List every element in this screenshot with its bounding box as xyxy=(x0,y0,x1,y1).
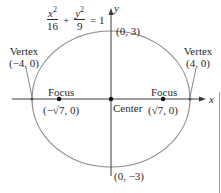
left-vertex-label: Vertex (−4, 0) xyxy=(4,45,44,69)
center-point xyxy=(109,97,113,101)
equation-term-y: y2 9 xyxy=(74,7,85,32)
equation-y-exp: 2 xyxy=(80,5,84,14)
right-focus-coords: (√7, 0) xyxy=(148,104,178,116)
bottom-point-label: (0, −3) xyxy=(114,170,144,182)
ellipse-equation: x2 16 + y2 9 = 1 xyxy=(45,7,108,32)
y-axis-arrow-icon xyxy=(109,8,114,15)
right-vertex-leader xyxy=(190,68,196,97)
equation-plus: + xyxy=(63,14,69,26)
left-vertex-coords: (−4, 0) xyxy=(4,57,44,69)
equation-term-x: x2 16 xyxy=(47,7,58,32)
right-vertex-coords: (4, 0) xyxy=(178,57,218,69)
center-label: Center xyxy=(113,102,142,114)
equation-x-exp: 2 xyxy=(53,5,57,14)
right-vertex-title: Vertex xyxy=(178,45,218,57)
equation-y-denominator: 9 xyxy=(77,20,83,32)
left-vertex-point xyxy=(30,97,33,100)
left-focus-title: Focus xyxy=(48,86,74,98)
equation-x-denominator: 16 xyxy=(47,20,58,32)
x-axis-label: x xyxy=(209,93,214,105)
left-vertex-leader xyxy=(26,68,32,97)
top-point-label: (0, 3) xyxy=(116,25,140,37)
left-focus-coords: (−√7, 0) xyxy=(43,104,79,116)
right-focus-title: Focus xyxy=(151,86,177,98)
equation-equals: = 1 xyxy=(90,14,104,26)
y-axis-label: y xyxy=(114,2,119,14)
x-axis-arrow-icon xyxy=(199,97,206,102)
right-vertex-label: Vertex (4, 0) xyxy=(178,45,218,69)
left-vertex-title: Vertex xyxy=(4,45,44,57)
right-vertex-point xyxy=(188,97,191,100)
ellipse-diagram xyxy=(0,0,221,193)
